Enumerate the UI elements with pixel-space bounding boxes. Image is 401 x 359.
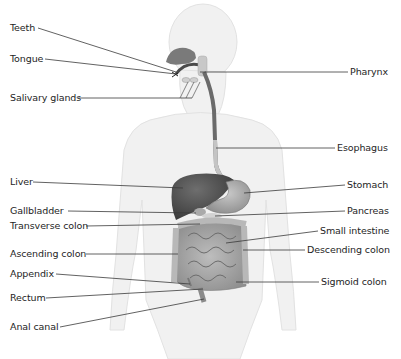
label-ascending-colon: Ascending colon [10,248,86,260]
label-pharynx: Pharynx [350,66,388,78]
label-salivary-glands: Salivary glands [10,92,81,104]
label-descending-colon: Descending colon [307,244,390,256]
label-rectum: Rectum [10,292,46,304]
label-stomach: Stomach [347,179,388,191]
label-liver: Liver [10,176,33,188]
label-anal-canal: Anal canal [10,321,59,333]
digestive-system-diagram [0,0,401,359]
label-transverse-colon: Transverse colon [10,220,88,232]
label-tongue: Tongue [10,53,43,65]
label-esophagus: Esophagus [337,142,388,154]
label-teeth: Teeth [10,22,35,34]
label-sigmoid-colon: Sigmoid colon [321,276,387,288]
label-small-intestine: Small intestine [320,225,389,237]
label-pancreas: Pancreas [347,205,389,217]
label-appendix: Appendix [10,268,54,280]
label-gallbladder: Gallbladder [10,205,64,217]
